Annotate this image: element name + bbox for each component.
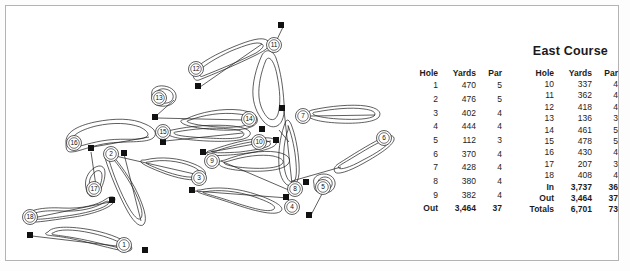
- svg-text:2: 2: [109, 150, 113, 157]
- cell-hole: 15: [520, 136, 554, 147]
- table-row: 14 461 5: [520, 125, 618, 136]
- golf-course-map-page: 1 2 3 4: [0, 0, 630, 271]
- hole-marker-17: 17: [87, 182, 102, 197]
- cell-hole: 7: [404, 161, 438, 175]
- svg-text:11: 11: [271, 41, 278, 48]
- svg-text:6: 6: [382, 134, 386, 141]
- cell-yards: 370: [438, 147, 476, 161]
- svg-text:18: 18: [26, 213, 34, 220]
- total-label-in: In: [520, 182, 554, 193]
- hole-marker-3: 3: [192, 171, 207, 186]
- cell-hole: 10: [520, 79, 554, 90]
- tee-marker: [200, 149, 206, 155]
- scorecard-tables: Hole Yards Par 1 470 5 2 476 5: [404, 68, 620, 216]
- cell-par: 5: [592, 125, 618, 136]
- tee-line-1: [32, 236, 125, 247]
- cell-hole: 13: [520, 113, 554, 124]
- cell-yards: 408: [554, 170, 592, 181]
- front-nine-total-row: Out 3,464 37: [404, 202, 502, 216]
- fairway-11-inner: [259, 58, 280, 119]
- table-row: 9 382 4: [404, 189, 502, 203]
- svg-text:12: 12: [192, 65, 200, 72]
- fairway-4: [197, 188, 282, 213]
- cell-par: 4: [476, 106, 502, 120]
- total-label-out: Out: [404, 202, 438, 216]
- hole-marker-15: 15: [156, 125, 171, 140]
- col-header-yards: Yards: [438, 68, 476, 79]
- cell-yards: 461: [554, 125, 592, 136]
- cell-hole: 14: [520, 125, 554, 136]
- cell-yards: 136: [554, 113, 592, 124]
- table-row: 3 402 4: [404, 106, 502, 120]
- cell-par: 3: [476, 134, 502, 148]
- svg-text:4: 4: [290, 203, 294, 210]
- tee-marker: [303, 179, 309, 185]
- total-yards-out: 3,464: [438, 202, 476, 216]
- table-row: 12 418 4: [520, 102, 618, 113]
- cell-yards: 470: [438, 79, 476, 93]
- tee-line-5: [311, 192, 323, 215]
- fairway-11: [253, 51, 284, 127]
- hole-marker-7: 7: [296, 109, 311, 124]
- tee-marker: [189, 187, 195, 193]
- cell-par: 4: [476, 147, 502, 161]
- back-nine-out-row: Out 3,464 37: [520, 193, 618, 204]
- hole-marker-6: 6: [377, 131, 392, 146]
- col-header-yards: Yards: [554, 68, 592, 79]
- cell-par: 4: [476, 189, 502, 203]
- hole-marker-11: 11: [267, 38, 282, 53]
- cell-yards: 418: [554, 102, 592, 113]
- tee-marker: [283, 194, 289, 200]
- cell-yards: 207: [554, 159, 592, 170]
- svg-text:16: 16: [70, 139, 78, 146]
- tee-line-16: [93, 137, 149, 147]
- cell-hole: 2: [404, 93, 438, 107]
- front-nine-table: Hole Yards Par 1 470 5 2 476 5: [404, 68, 502, 216]
- tee-marker: [109, 197, 115, 203]
- tee-marker: [278, 22, 284, 28]
- table-gap: [502, 68, 520, 216]
- svg-text:7: 7: [301, 112, 305, 119]
- cell-hole: 18: [520, 170, 554, 181]
- fairway-4-inner: [203, 191, 275, 211]
- total-par-in: 36: [592, 182, 618, 193]
- svg-text:10: 10: [255, 138, 263, 145]
- cell-hole: 3: [404, 106, 438, 120]
- back-nine-header-row: Hole Yards Par: [520, 68, 618, 79]
- hole-marker-14: 14: [242, 112, 257, 127]
- tee-line-7: [311, 115, 375, 116]
- svg-text:14: 14: [245, 115, 253, 122]
- svg-text:5: 5: [321, 183, 325, 190]
- svg-text:9: 9: [210, 157, 214, 164]
- cell-yards: 382: [438, 189, 476, 203]
- tee-marker: [152, 114, 158, 120]
- cell-yards: 478: [554, 136, 592, 147]
- svg-text:8: 8: [293, 185, 297, 192]
- col-header-par: Par: [476, 68, 502, 79]
- table-row: 17 207 3: [520, 159, 618, 170]
- total-label-out2: Out: [520, 193, 554, 204]
- svg-text:1: 1: [122, 241, 126, 248]
- total-par-out: 37: [476, 202, 502, 216]
- tee-line-17: [91, 152, 96, 186]
- table-row: 8 380 4: [404, 175, 502, 189]
- cell-par: 4: [592, 170, 618, 181]
- hole-marker-16: 16: [67, 136, 82, 151]
- svg-text:3: 3: [197, 174, 201, 181]
- cell-par: 3: [592, 159, 618, 170]
- cell-par: 5: [476, 79, 502, 93]
- cell-hole: 9: [404, 189, 438, 203]
- table-row: 4 444 4: [404, 120, 502, 134]
- tee-marker: [160, 139, 166, 145]
- table-row: 6 370 4: [404, 147, 502, 161]
- totals-row: Totals 6,701 73: [520, 204, 618, 215]
- cell-yards: 362: [554, 90, 592, 101]
- cell-yards: 476: [438, 93, 476, 107]
- tee-marker: [306, 212, 312, 218]
- col-header-hole: Hole: [404, 68, 438, 79]
- cell-hole: 11: [520, 90, 554, 101]
- tee-marker: [279, 105, 285, 111]
- scorecard: East Course Hole Yards Par 1 470 5: [404, 44, 620, 216]
- hole-marker-10: 10: [252, 135, 267, 150]
- tee-marker: [259, 126, 265, 132]
